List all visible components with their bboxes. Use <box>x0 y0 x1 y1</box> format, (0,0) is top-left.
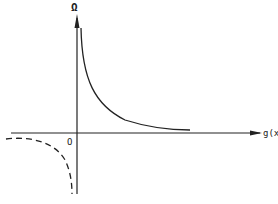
x-axis-label: g(x) <box>263 128 278 138</box>
x-axis-arrowhead-icon <box>250 131 262 136</box>
y-axis-arrowhead-icon <box>75 14 80 28</box>
positive-branch-curve <box>81 28 190 130</box>
negative-branch-curve <box>6 138 72 194</box>
diagram-canvas: Ω g(x) O <box>0 0 278 204</box>
y-axis-label: Ω <box>71 1 78 14</box>
origin-label: O <box>67 137 72 147</box>
